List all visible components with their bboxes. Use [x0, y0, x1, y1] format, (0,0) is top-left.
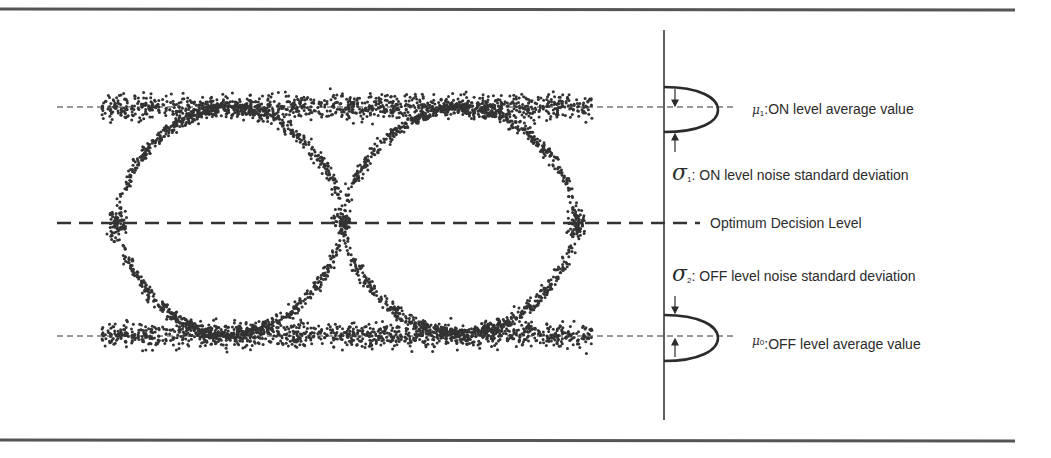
- mu0-label: μ0:OFF level average value: [752, 334, 921, 352]
- sigma1-symbol: σ: [672, 160, 687, 185]
- bottom-rule: [0, 440, 1015, 441]
- decision-level-text: Optimum Decision Level: [710, 215, 862, 231]
- sigma1-arrows: [672, 89, 678, 152]
- eye-pattern-dots: [101, 87, 594, 355]
- sigma2-label: σ2: OFF level noise standard deviation: [672, 261, 916, 286]
- decision-level-label: Optimum Decision Level: [710, 215, 862, 231]
- mu1-label: μ1:ON level average value: [752, 101, 914, 118]
- mu1-symbol: μ: [752, 103, 760, 117]
- mu1-text: :ON level average value: [764, 101, 913, 117]
- sigma1-text: : ON level noise standard deviation: [691, 167, 908, 183]
- top-rule: [0, 9, 1015, 10]
- eye-diagram-figure: [0, 0, 1051, 458]
- sigma1-label: σ1: ON level noise standard deviation: [672, 160, 909, 185]
- off-level-gaussian-curve: [664, 315, 718, 361]
- mu0-text: :OFF level average value: [764, 336, 920, 352]
- sigma2-arrows: [672, 296, 678, 357]
- sigma2-symbol: σ: [672, 261, 687, 286]
- sigma2-text: : OFF level noise standard deviation: [691, 268, 915, 284]
- mu0-symbol: μ: [752, 334, 760, 348]
- on-level-gaussian-curve: [664, 87, 718, 132]
